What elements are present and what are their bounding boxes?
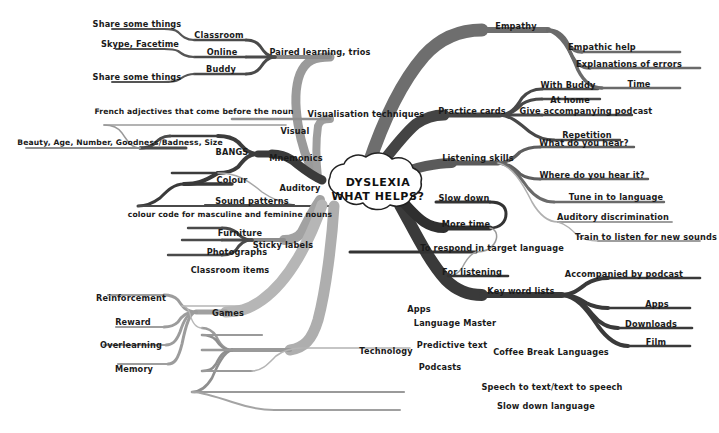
node-at-home[interactable]: At home — [550, 95, 590, 105]
node-slow-down-language[interactable]: Slow down language — [497, 401, 595, 411]
node-mnemonics[interactable]: Mnemonics — [269, 153, 322, 163]
node-reward[interactable]: Reward — [115, 317, 151, 327]
center-node-title: DYSLEXIA WHAT HELPS? — [331, 176, 424, 204]
node-games[interactable]: Games — [212, 308, 244, 318]
node-explanations-of-errors[interactable]: Explanations of errors — [576, 59, 682, 69]
node-apps-technology[interactable]: Apps — [407, 304, 431, 314]
node-film[interactable]: Film — [646, 337, 666, 347]
node-empathy[interactable]: Empathy — [495, 21, 537, 31]
node-tune-in-to-language[interactable]: Tune in to language — [569, 192, 663, 202]
node-more-time[interactable]: More time — [442, 219, 490, 229]
node-predictive-text[interactable]: Predictive text — [417, 340, 488, 350]
node-time[interactable]: Time — [627, 79, 650, 89]
node-colour-code[interactable]: colour code for masculine and feminine n… — [128, 210, 332, 220]
node-colour[interactable]: Colour — [217, 175, 248, 185]
center-line-2: WHAT HELPS? — [331, 190, 424, 204]
node-slow-down[interactable]: Slow down — [439, 193, 490, 203]
node-share-some-things-2[interactable]: Share some things — [93, 72, 182, 82]
node-downloads[interactable]: Downloads — [625, 319, 677, 329]
node-to-respond-target-language[interactable]: To respond in target language — [420, 243, 564, 253]
center-line-1: DYSLEXIA — [331, 176, 424, 190]
node-bangs-expansion[interactable]: Beauty, Age, Number, Goodness/Badness, S… — [17, 138, 222, 148]
node-key-word-lists[interactable]: Key word lists — [487, 286, 554, 296]
node-overlearning[interactable]: Overlearning — [100, 340, 162, 350]
node-furniture[interactable]: Furniture — [218, 228, 262, 238]
node-speech-to-text[interactable]: Speech to text/text to speech — [481, 382, 622, 392]
node-accompanied-by-podcast[interactable]: Accompanied by podcast — [565, 269, 683, 279]
node-with-buddy[interactable]: With Buddy — [540, 80, 595, 90]
node-bangs[interactable]: BANGS — [216, 147, 249, 157]
node-empathic-help[interactable]: Empathic help — [568, 42, 636, 52]
node-reinforcement[interactable]: Reinforcement — [96, 293, 166, 303]
node-auditory-discrimination[interactable]: Auditory discrimination — [557, 212, 669, 222]
node-classroom[interactable]: Classroom — [194, 30, 243, 40]
mind-map-canvas: DYSLEXIA WHAT HELPS? Share some things S… — [0, 0, 719, 433]
node-memory[interactable]: Memory — [115, 364, 153, 374]
node-skype-facetime[interactable]: Skype, Facetime — [101, 39, 179, 49]
node-apps-keyword[interactable]: Apps — [645, 299, 669, 309]
node-sticky-labels[interactable]: Sticky labels — [253, 240, 313, 250]
node-train-to-listen[interactable]: Train to listen for new sounds — [575, 232, 717, 242]
node-coffee-break-languages[interactable]: Coffee Break Languages — [493, 347, 609, 357]
node-podcasts[interactable]: Podcasts — [419, 362, 462, 372]
node-buddy[interactable]: Buddy — [206, 64, 236, 74]
node-listening-skills[interactable]: Listening skills — [442, 153, 514, 163]
node-visual[interactable]: Visual — [281, 126, 310, 136]
node-online[interactable]: Online — [207, 47, 238, 57]
node-practice-cards[interactable]: Practice cards — [438, 106, 506, 116]
node-repetition[interactable]: Repetition — [562, 130, 612, 140]
node-classroom-items[interactable]: Classroom items — [191, 265, 270, 275]
node-technology[interactable]: Technology — [359, 346, 412, 356]
node-language-master[interactable]: Language Master — [414, 318, 496, 328]
node-sound-patterns[interactable]: Sound patterns — [215, 196, 289, 206]
node-french-adjectives[interactable]: French adjectives that come before the n… — [94, 107, 293, 117]
node-visualisation-techniques[interactable]: Visualisation techniques — [308, 109, 425, 119]
node-paired-learning[interactable]: Paired learning, trios — [269, 47, 370, 57]
node-auditory[interactable]: Auditory — [280, 183, 321, 193]
node-for-listening[interactable]: For listening — [442, 267, 502, 277]
node-where-do-you-hear-it[interactable]: Where do you hear it? — [539, 170, 644, 180]
node-share-some-things-1[interactable]: Share some things — [93, 19, 182, 29]
node-give-accompanying-podcast[interactable]: Give accompanying podcast — [520, 106, 653, 116]
